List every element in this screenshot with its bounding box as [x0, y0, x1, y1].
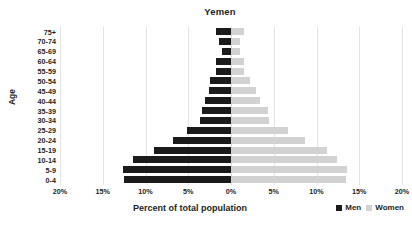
- bar-men: [222, 48, 231, 55]
- legend-label: Women: [375, 203, 404, 212]
- y-tick-label: 20-24: [0, 136, 56, 145]
- x-tick-label: 15%: [96, 187, 110, 196]
- x-axis-ticks: 20%15%10%5%0%5%10%15%20%: [60, 187, 402, 199]
- population-pyramid-chart: Yemen Age 75+70-7465-6960-6455-5950-5445…: [0, 0, 412, 225]
- bar-men: [205, 97, 231, 104]
- x-tick-label: 5%: [183, 187, 193, 196]
- pyramid-row: [60, 96, 402, 106]
- y-tick-label: 0-4: [0, 176, 56, 185]
- bar-men: [202, 107, 231, 114]
- bar-women: [231, 97, 260, 104]
- bar-women: [231, 166, 347, 173]
- pyramid-row: [60, 27, 402, 37]
- y-tick-label: 40-44: [0, 97, 56, 106]
- pyramid-row: [60, 136, 402, 146]
- bar-women: [231, 137, 305, 144]
- bar-women: [231, 127, 288, 134]
- bar-men: [187, 127, 231, 134]
- x-tick-label: 10%: [309, 187, 323, 196]
- x-tick-label: 15%: [352, 187, 366, 196]
- pyramid-row: [60, 86, 402, 96]
- bar-women: [231, 107, 268, 114]
- bar-men: [154, 147, 231, 154]
- pyramid-row: [60, 126, 402, 136]
- y-tick-label: 15-19: [0, 146, 56, 155]
- bar-women: [231, 77, 250, 84]
- bar-men: [216, 28, 231, 35]
- x-tick-label: 5%: [269, 187, 279, 196]
- pyramid-row: [60, 57, 402, 67]
- chart-title: Yemen: [0, 6, 412, 17]
- y-tick-label: 50-54: [0, 77, 56, 86]
- bar-women: [231, 48, 240, 55]
- bar-men: [210, 77, 231, 84]
- legend-item: Women: [366, 203, 404, 212]
- y-tick-label: 5-9: [0, 166, 56, 175]
- pyramid-row: [60, 37, 402, 47]
- bar-rows: [60, 27, 402, 185]
- bar-men: [133, 156, 231, 163]
- y-tick-label: 55-59: [0, 67, 56, 76]
- pyramid-row: [60, 175, 402, 185]
- bar-women: [231, 87, 256, 94]
- plot-area: [60, 27, 402, 185]
- pyramid-row: [60, 67, 402, 77]
- bar-men: [216, 58, 231, 65]
- legend-swatch-icon: [366, 205, 372, 211]
- y-tick-label: 70-74: [0, 37, 56, 46]
- bar-men: [209, 87, 231, 94]
- pyramid-row: [60, 116, 402, 126]
- y-tick-label: 30-34: [0, 116, 56, 125]
- x-tick-label: 0%: [226, 187, 236, 196]
- pyramid-row: [60, 106, 402, 116]
- bar-women: [231, 38, 240, 45]
- y-tick-label: 35-39: [0, 107, 56, 116]
- x-axis-label: Percent of total population: [95, 203, 285, 213]
- y-tick-label: 75+: [0, 28, 56, 37]
- y-tick-label: 10-14: [0, 156, 56, 165]
- bar-women: [231, 58, 244, 65]
- y-tick-label: 45-49: [0, 87, 56, 96]
- y-tick-label: 60-64: [0, 57, 56, 66]
- gridline: [402, 27, 403, 185]
- y-axis-ticks: 75+70-7465-6960-6455-5950-5445-4940-4435…: [0, 27, 56, 185]
- bar-women: [231, 176, 346, 183]
- bar-men: [219, 38, 231, 45]
- y-tick-label: 65-69: [0, 47, 56, 56]
- pyramid-row: [60, 165, 402, 175]
- legend-item: Men: [336, 203, 361, 212]
- y-tick-label: 25-29: [0, 126, 56, 135]
- bar-women: [231, 147, 327, 154]
- pyramid-row: [60, 47, 402, 57]
- bar-men: [124, 176, 231, 183]
- x-tick-label: 20%: [395, 187, 409, 196]
- bar-men: [216, 68, 231, 75]
- x-tick-label: 20%: [53, 187, 67, 196]
- bar-men: [200, 117, 231, 124]
- bar-women: [231, 28, 244, 35]
- legend-label: Men: [345, 203, 361, 212]
- legend-swatch-icon: [336, 205, 342, 211]
- pyramid-row: [60, 155, 402, 165]
- bar-women: [231, 117, 269, 124]
- x-tick-label: 10%: [138, 187, 152, 196]
- pyramid-row: [60, 76, 402, 86]
- chart-legend: MenWomen: [336, 203, 404, 212]
- bar-women: [231, 156, 337, 163]
- pyramid-row: [60, 146, 402, 156]
- bar-men: [123, 166, 231, 173]
- bar-women: [231, 68, 244, 75]
- bar-men: [173, 137, 231, 144]
